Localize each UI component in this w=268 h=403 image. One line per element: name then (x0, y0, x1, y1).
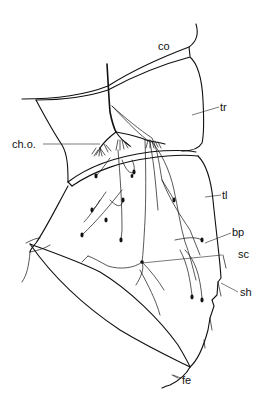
leader-lines (43, 107, 238, 378)
label-co: co (158, 40, 170, 52)
label-tr: tr (220, 101, 227, 113)
joint-band (68, 151, 198, 187)
nerve-trunk (107, 64, 200, 255)
label-tl: tl (222, 189, 228, 201)
label-sh: sh (240, 286, 252, 298)
label-sc: sc (238, 248, 250, 260)
coxa-segment (22, 24, 197, 99)
label-fe: fe (182, 374, 191, 386)
leg-anatomy-diagram: co tr ch.o. tl bp sc sh fe (0, 0, 268, 403)
nerve-branches (82, 140, 202, 315)
label-bp: bp (232, 226, 244, 238)
trochanter-segment (36, 57, 204, 182)
label-ch-o: ch.o. (12, 138, 36, 150)
sensory-terminals (80, 170, 203, 303)
